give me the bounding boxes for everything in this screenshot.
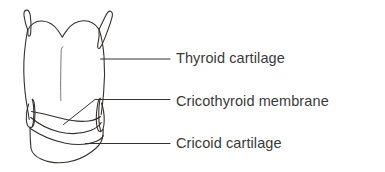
figure-container: Thyroid cartilage Cricothyroid membrane … [0, 0, 385, 172]
label-thyroid-cartilage: Thyroid cartilage [176, 51, 285, 66]
right-superior-horn [98, 11, 113, 48]
thyroid-midline-crease [61, 47, 63, 101]
left-inferior-horn-inner [32, 99, 34, 126]
label-cricoid-cartilage: Cricoid cartilage [176, 136, 282, 151]
cricothyroid-membrane-upper-edge [32, 112, 101, 122]
cricoid-cartilage-outline [30, 127, 103, 163]
cricoid-upper-border [30, 129, 103, 145]
label-cricothyroid-membrane: Cricothyroid membrane [176, 94, 329, 109]
thyroid-cartilage-outline [24, 21, 105, 120]
left-superior-horn [24, 10, 31, 36]
